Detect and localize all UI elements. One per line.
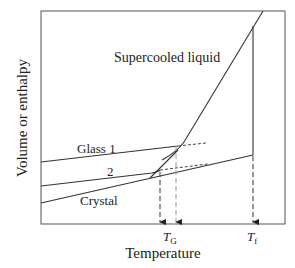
label-supercooled-liquid: Supercooled liquid <box>114 50 220 65</box>
label-glass1: Glass 1 <box>77 141 116 156</box>
tick-tg: TG <box>163 229 177 246</box>
tick-tf: Tf <box>247 229 257 246</box>
y-axis-label: Volume or enthalpy <box>14 58 30 177</box>
x-axis-label: Temperature <box>125 245 201 261</box>
plot-frame <box>41 11 285 224</box>
label-glass2: 2 <box>107 164 114 179</box>
crystal-line <box>41 155 253 203</box>
volume-temperature-diagram: Supercooled liquid Glass 1 2 Crystal TG … <box>0 0 295 268</box>
supercooled-liquid-line <box>162 11 263 160</box>
label-crystal: Crystal <box>80 193 118 208</box>
glass2-line <box>41 170 160 186</box>
liquid-extension-line <box>150 150 178 178</box>
